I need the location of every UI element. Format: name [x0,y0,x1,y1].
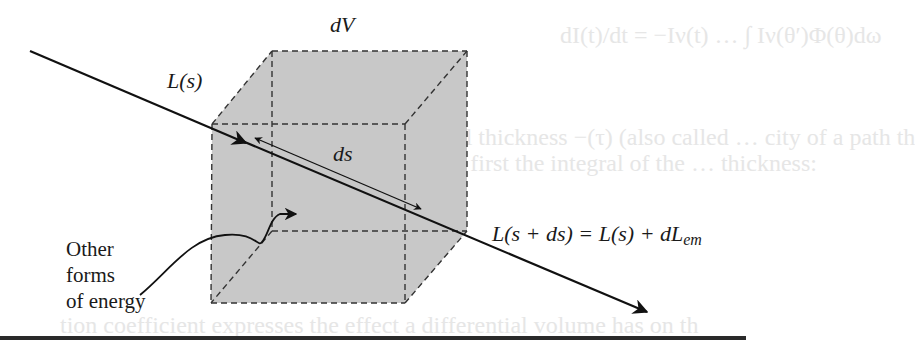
path-element-label: ds [333,141,353,167]
incoming-ray-arrow [30,51,246,143]
volume-element-cube [211,51,467,303]
equation-subscript: em [683,231,702,248]
volume-label: dV [330,12,354,38]
other-energy-line-3: of energy [66,288,146,314]
page-bottom-edge [0,336,746,340]
outgoing-radiance-equation: L(s + ds) = L(s) + dLem [492,221,702,249]
other-energy-line-2: forms [66,262,146,288]
incoming-radiance-label: L(s) [167,68,202,94]
equation-main: L(s + ds) = L(s) + dL [492,221,683,246]
other-energy-line-1: Other [66,236,146,262]
other-energy-label: Other forms of energy [66,236,146,314]
